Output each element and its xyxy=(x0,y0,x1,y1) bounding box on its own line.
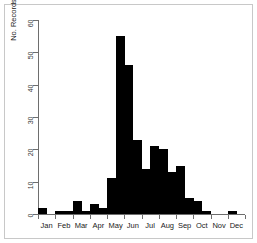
x-axis-tick xyxy=(55,215,56,219)
x-axis-tick xyxy=(193,215,194,219)
x-axis-tick xyxy=(211,215,212,219)
y-axis-tick-label: 50 xyxy=(27,52,34,74)
x-axis-tick xyxy=(38,215,39,219)
y-axis-tick-label: 30 xyxy=(27,117,34,139)
y-axis-tick-label: 20 xyxy=(27,149,34,171)
x-axis-tick-label: Dec xyxy=(224,221,248,230)
y-axis-tick-label: 10 xyxy=(27,181,34,203)
y-axis-tick-label: 0 xyxy=(27,214,34,236)
x-axis-tick xyxy=(159,215,160,219)
x-axis-tick xyxy=(142,215,143,219)
x-axis-tick xyxy=(90,215,91,219)
plot-area xyxy=(38,20,245,214)
x-axis-tick xyxy=(176,215,177,219)
x-axis-tick xyxy=(245,215,246,219)
y-axis-tick-label: 60 xyxy=(27,20,34,42)
x-axis-tick xyxy=(228,215,229,219)
x-axis-tick xyxy=(73,215,74,219)
x-axis-tick xyxy=(107,215,108,219)
histogram-figure: 0102030405060 No. Records JanFebMarAprMa… xyxy=(0,0,257,243)
y-axis-tick-label: 40 xyxy=(27,84,34,106)
bar-series xyxy=(38,20,245,214)
x-axis-tick xyxy=(124,215,125,219)
y-axis-title: No. Records xyxy=(9,0,19,117)
